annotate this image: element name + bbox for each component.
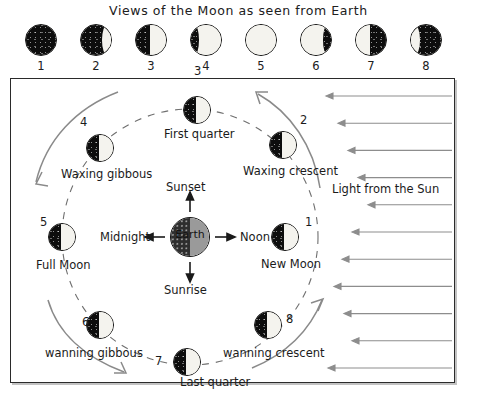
phase-number-2: 2 <box>69 59 123 73</box>
label-sunset: Sunset <box>166 180 205 194</box>
moon-phase-icon-waning-crescent <box>410 24 442 56</box>
phase-cell-3: 3 <box>124 24 178 73</box>
orbit-moon-label-3: First quarter <box>164 127 235 141</box>
orbit-moon-1 <box>271 223 299 251</box>
phase-number-4: 4 <box>179 59 233 73</box>
moon-phase-icon-new <box>25 24 57 56</box>
label-sunrise: Sunrise <box>164 283 207 297</box>
phase-cell-5: 5 <box>234 24 288 73</box>
orbit-moon-number-7: 7 <box>155 354 162 368</box>
phase-number-3: 3 <box>124 59 178 73</box>
phase-cell-4: 4 <box>179 24 233 73</box>
earth-label: Earth <box>170 228 210 241</box>
orbit-moon-label-8: wanning crescent <box>223 346 325 360</box>
orbit-moon-number-4: 4 <box>80 115 87 129</box>
moon-phase-icon-waxing-crescent <box>80 24 112 56</box>
phase-cell-2: 2 <box>69 24 123 73</box>
orbit-moon-number-5: 5 <box>40 215 47 229</box>
label-midnight: Midnight <box>100 230 150 244</box>
orbit-moon-number-1: 1 <box>305 215 312 229</box>
phase-number-7: 7 <box>344 59 398 73</box>
orbit-moon-label-5: Full Moon <box>36 258 91 272</box>
sun-light-label: Light from the Sun <box>332 182 439 196</box>
moon-phase-diagram: Views of the Moon as seen from Earth 123… <box>0 0 477 404</box>
moon-phase-icon-first-quarter <box>135 24 167 56</box>
moon-phase-icon-full <box>245 24 277 56</box>
page-title: Views of the Moon as seen from Earth <box>0 3 477 18</box>
orbit-moon-number-8: 8 <box>286 312 293 326</box>
phase-strip: 12345678 <box>0 24 477 76</box>
orbit-moon-3 <box>183 96 211 124</box>
orbit-moon-5 <box>48 223 76 251</box>
phase-cell-6: 6 <box>289 24 343 73</box>
orbit-moon-label-2: Waxing crescent <box>243 164 338 178</box>
orbit-moon-number-3: 3 <box>194 64 201 78</box>
orbit-moon-label-7: Last quarter <box>180 375 250 389</box>
label-noon: Noon <box>240 230 270 244</box>
orbit-moon-2 <box>269 131 297 159</box>
orbit-diagram-box <box>10 78 455 383</box>
moon-phase-icon-last-quarter <box>355 24 387 56</box>
phase-number-6: 6 <box>289 59 343 73</box>
orbit-moon-4 <box>86 134 114 162</box>
moon-phase-icon-waning-gibbous <box>300 24 332 56</box>
orbit-moon-7 <box>173 348 201 376</box>
moon-phase-icon-waxing-gibbous <box>190 24 222 56</box>
orbit-moon-number-6: 6 <box>82 315 89 329</box>
phase-cell-8: 8 <box>399 24 453 73</box>
orbit-moon-label-6: wanning gibbous <box>45 346 143 360</box>
orbit-moon-number-2: 2 <box>300 113 307 127</box>
orbit-moon-6 <box>86 311 114 339</box>
phase-cell-7: 7 <box>344 24 398 73</box>
phase-number-1: 1 <box>14 59 68 73</box>
orbit-moon-8 <box>254 311 282 339</box>
phase-number-5: 5 <box>234 59 288 73</box>
orbit-moon-label-4: Waxing gibbous <box>61 167 152 181</box>
phase-cell-1: 1 <box>14 24 68 73</box>
phase-number-8: 8 <box>399 59 453 73</box>
orbit-moon-label-1: New Moon <box>261 257 321 271</box>
